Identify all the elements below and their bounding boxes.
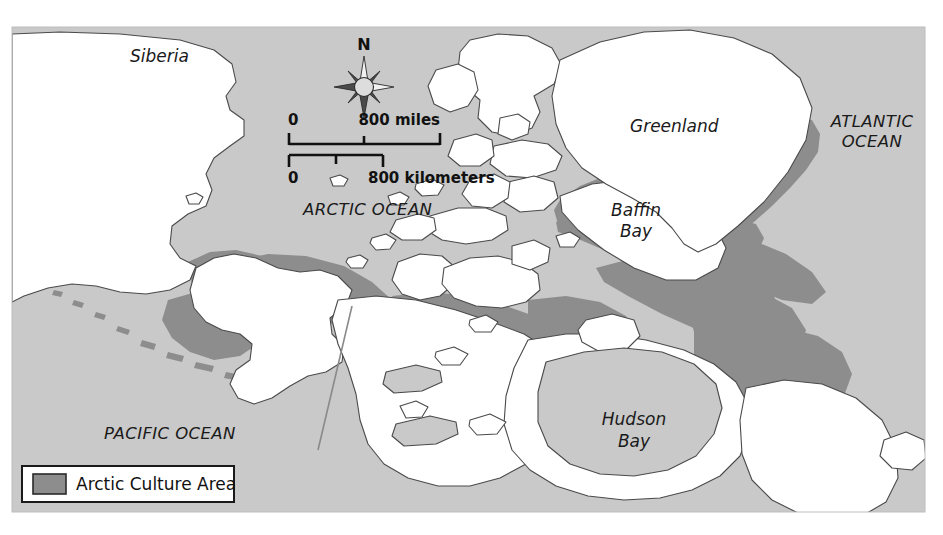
label-hudson-bay-line2: Bay (618, 431, 651, 451)
label-atlantic-ocean-line1: ATLANTIC (830, 112, 914, 131)
label-hudson-bay-line1: Hudson (602, 409, 666, 429)
map-body: Siberia ARCTIC OCEAN PACIFIC OCEAN ATLAN… (12, 27, 926, 520)
map-canvas: Siberia ARCTIC OCEAN PACIFIC OCEAN ATLAN… (0, 0, 943, 535)
compass-north-label: N (357, 35, 370, 54)
scale-kilometers-max-label: 800 kilometers (368, 169, 495, 187)
map-legend: Arctic Culture Area (22, 466, 236, 502)
label-baffin-bay-line1: Baffin (611, 200, 661, 220)
scale-kilometers-zero-label: 0 (288, 169, 298, 187)
legend-swatch-arctic-culture-area (33, 474, 66, 494)
label-siberia: Siberia (130, 46, 189, 66)
scale-miles-zero-label: 0 (288, 111, 298, 129)
label-baffin-bay-line2: Bay (620, 221, 653, 241)
label-greenland: Greenland (630, 116, 719, 136)
scale-miles-max-label: 800 miles (358, 111, 440, 129)
label-atlantic-ocean-line2: OCEAN (842, 132, 903, 151)
arctic-culture-area-map: Siberia ARCTIC OCEAN PACIFIC OCEAN ATLAN… (0, 0, 943, 535)
label-arctic-ocean: ARCTIC OCEAN (302, 200, 432, 219)
label-pacific-ocean: PACIFIC OCEAN (104, 424, 236, 443)
legend-label-arctic-culture-area: Arctic Culture Area (76, 474, 236, 494)
compass-center-hub (355, 78, 374, 97)
